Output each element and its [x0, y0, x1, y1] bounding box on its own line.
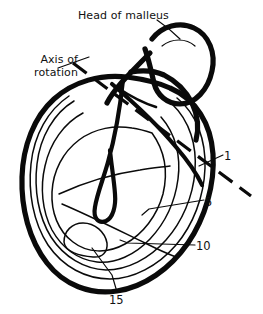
marker-label-10: 10 [196, 240, 211, 252]
label-head-of-malleus: Head of malleus [78, 10, 169, 23]
marker-label-5: 5 [205, 196, 212, 208]
marker-label-1: 1 [224, 150, 231, 162]
membrane-crease-lower [62, 204, 176, 257]
label-axis-of-rotation: Axis of rotation [18, 54, 78, 79]
head-inner-highlight [162, 40, 195, 46]
contour-ring-third [42, 113, 178, 262]
marker-label-15: 15 [109, 294, 124, 306]
anatomical-figure: Head of malleus Axis of rotation 1 5 10 … [0, 0, 263, 314]
